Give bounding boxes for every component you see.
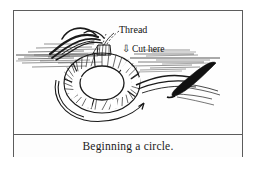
scanned-page: Thread ⇩ Cut here Beginning a circle. <box>0 0 253 169</box>
needle-icon <box>167 62 216 105</box>
cut-here-label: Cut here <box>132 45 164 55</box>
curved-direction-arrow-icon <box>55 80 144 121</box>
caption-area: Beginning a circle. <box>14 134 242 157</box>
stitch-ring <box>64 53 141 114</box>
figure-frame: Thread ⇩ Cut here Beginning a circle. <box>13 10 243 157</box>
down-arrow-icon: ⇩ <box>122 44 130 54</box>
illustration-area: Thread ⇩ Cut here <box>14 11 242 134</box>
thread-label: Thread <box>119 25 147 35</box>
figure-caption: Beginning a circle. <box>83 140 174 152</box>
